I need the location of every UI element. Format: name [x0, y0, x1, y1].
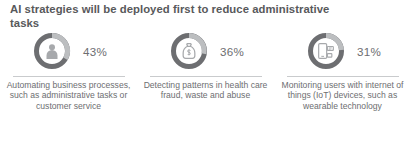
column-divider — [13, 76, 125, 77]
stat-columns: 43% Automating business processes, such … — [0, 30, 411, 111]
stat-caption: Detecting patterns in health care fraud,… — [142, 80, 270, 101]
stat-caption: Monitoring users with internet of things… — [279, 80, 407, 111]
column-divider — [287, 76, 399, 77]
stat-percent-label: 31% — [357, 45, 381, 58]
stat-row: 31% — [274, 30, 411, 72]
stat-percent-label: 43% — [83, 45, 107, 58]
donut-chart-31 — [306, 31, 346, 71]
infographic-panel: AI strategies will be deployed first to … — [0, 0, 411, 141]
donut-chart-36 — [169, 31, 209, 71]
stat-percent-label: 36% — [220, 45, 244, 58]
stat-column-automating-business-processes: 43% Automating business processes, such … — [0, 30, 137, 111]
donut-chart-43 — [32, 31, 72, 71]
column-divider — [150, 76, 262, 77]
page-title: AI strategies will be deployed first to … — [10, 3, 340, 30]
stat-caption: Automating business processes, such as a… — [5, 80, 133, 111]
stat-row: 36% — [137, 30, 274, 72]
stat-row: 43% — [0, 30, 137, 72]
stat-column-monitoring-iot-devices: 31% Monitoring users with internet of th… — [274, 30, 411, 111]
stat-column-detecting-fraud-patterns: 36% Detecting patterns in health care fr… — [137, 30, 274, 101]
